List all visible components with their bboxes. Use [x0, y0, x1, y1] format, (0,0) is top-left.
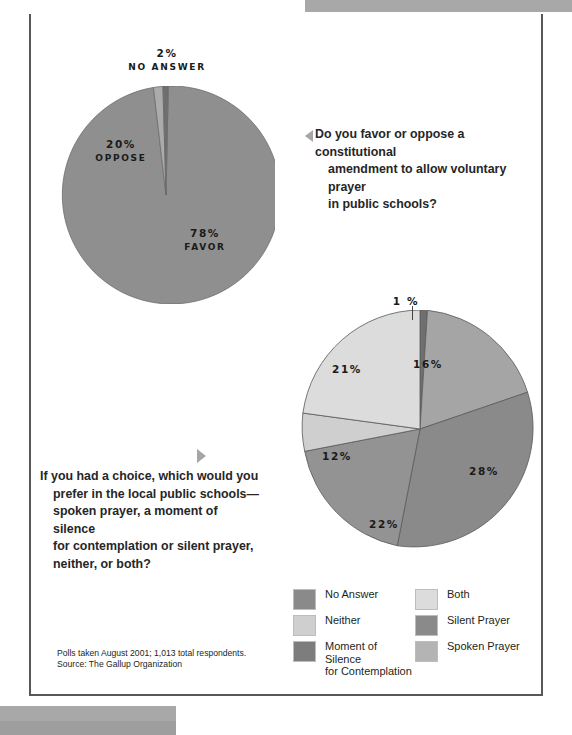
question-1-line-1: Do you favor or oppose a constitutional	[315, 126, 543, 161]
legend-item-both: Both	[415, 588, 541, 614]
source-line-1: Polls taken August 2001; 1,013 total res…	[57, 648, 307, 659]
legend-item-spoken-prayer: Spoken Prayer	[415, 640, 541, 666]
pie-label-16-percent-pct: 16%	[404, 357, 452, 372]
triangle-left-icon	[305, 130, 313, 142]
pie-label-21-percent: 21%	[323, 362, 371, 377]
pie-label-oppose-pct: 20%	[76, 137, 166, 152]
pie-label-favor: 78% FAVOR	[160, 226, 250, 254]
legend-label-silent-prayer: Silent Prayer	[447, 614, 510, 627]
pie-label-12-percent: 12%	[313, 449, 361, 464]
legend-label-no-answer: No Answer	[325, 588, 378, 601]
legend-label-moment-of-silence-line-1: Moment of Silence	[325, 640, 377, 665]
legend-label-neither: Neither	[325, 614, 360, 627]
legend-swatch-both	[415, 589, 438, 610]
question-2-line-1: If you had a choice, which would you	[40, 468, 262, 486]
pie-label-no-answer-top-cat: NO ANSWER	[97, 61, 237, 74]
question-1-line-3: in public schools?	[315, 196, 543, 214]
legend-label-both: Both	[447, 588, 470, 601]
pie-label-28-percent: 28%	[460, 464, 508, 479]
question-school-prayer-preference: If you had a choice, which would you pre…	[40, 468, 262, 574]
pie-label-favor-pct: 78%	[160, 226, 250, 241]
pie-label-28-percent-pct: 28%	[460, 464, 508, 479]
legend-label-spoken-prayer: Spoken Prayer	[447, 640, 520, 653]
frame-line-right	[541, 14, 543, 695]
pie-label-1-percent: 1 %	[386, 294, 426, 309]
pie-label-oppose: 20% OPPOSE	[76, 137, 166, 165]
pie-label-no-answer-top: 2% NO ANSWER	[97, 46, 237, 74]
legend-swatch-spoken-prayer	[415, 641, 438, 662]
pie-chart-prayer-amendment	[57, 86, 275, 304]
question-2-line-5: neither, or both?	[40, 556, 262, 574]
infographic-page: 2% NO ANSWER 20% OPPOSE 78% FAVOR Do you…	[0, 0, 572, 735]
legend-item-moment-of-silence: Moment of Silence for Contemplation	[293, 640, 415, 666]
pie-label-no-answer-top-pct: 2%	[97, 46, 237, 61]
frame-line-left	[29, 14, 31, 695]
pie-label-12-percent-pct: 12%	[313, 449, 361, 464]
legend-item-neither: Neither	[293, 614, 415, 640]
legend-label-moment-of-silence-line-2: for Contemplation	[325, 665, 415, 678]
pie-label-1-percent-pct: 1 %	[386, 294, 426, 309]
legend-item-silent-prayer: Silent Prayer	[415, 614, 541, 640]
bottom-gray-banner-accent	[0, 721, 176, 735]
pie-chart-school-prayer-preference	[301, 310, 539, 548]
pie-slice-favor	[62, 86, 275, 304]
pie-label-22-percent: 22%	[360, 517, 408, 532]
legend-swatch-no-answer	[293, 589, 316, 610]
triangle-right-icon	[197, 449, 206, 463]
legend-label-moment-of-silence: Moment of Silence for Contemplation	[325, 640, 415, 678]
chart-legend: No Answer Both Neither Silent Prayer Mom…	[293, 588, 541, 666]
pie-label-16-percent: 16%	[404, 357, 452, 372]
question-2-line-4: for contemplation or silent prayer,	[40, 538, 262, 556]
top-gray-banner	[305, 0, 572, 12]
pie-label-favor-cat: FAVOR	[160, 241, 250, 254]
frame-line-bottom	[29, 694, 543, 696]
legend-swatch-silent-prayer	[415, 615, 438, 636]
legend-swatch-neither	[293, 615, 316, 636]
question-1-line-2: amendment to allow voluntary prayer	[315, 161, 543, 196]
question-2-line-3: spoken prayer, a moment of silence	[40, 503, 262, 538]
source-line-2: Source: The Gallup Organization	[57, 659, 307, 670]
question-2-line-2: prefer in the local public schools—	[40, 486, 262, 504]
legend-item-no-answer: No Answer	[293, 588, 415, 614]
pie-label-oppose-cat: OPPOSE	[76, 152, 166, 165]
pie-label-22-percent-pct: 22%	[360, 517, 408, 532]
source-note: Polls taken August 2001; 1,013 total res…	[57, 648, 307, 670]
question-prayer-amendment: Do you favor or oppose a constitutional …	[315, 126, 543, 214]
pie-label-21-percent-pct: 21%	[323, 362, 371, 377]
